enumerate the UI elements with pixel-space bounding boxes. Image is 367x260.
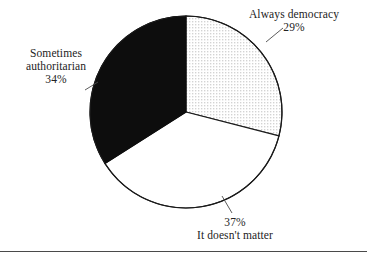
label-it-doesnt-matter-percent: 37%	[165, 216, 305, 229]
label-sometimes-authoritarian-line1: Sometimes	[2, 47, 110, 60]
label-always-democracy-text: Always democracy	[228, 8, 360, 21]
label-sometimes-authoritarian: Sometimes authoritarian 34%	[2, 47, 110, 86]
bottom-divider-rule	[0, 251, 367, 252]
label-always-democracy-percent: 29%	[228, 21, 360, 34]
label-always-democracy: Always democracy 29%	[228, 8, 360, 34]
label-sometimes-authoritarian-percent: 34%	[2, 73, 110, 86]
label-sometimes-authoritarian-line2: authoritarian	[2, 60, 110, 73]
label-it-doesnt-matter-text: It doesn't matter	[165, 229, 305, 242]
pie-chart-figure: Always democracy 29% Sometimes authorita…	[0, 0, 367, 260]
label-it-doesnt-matter: 37% It doesn't matter	[165, 216, 305, 242]
